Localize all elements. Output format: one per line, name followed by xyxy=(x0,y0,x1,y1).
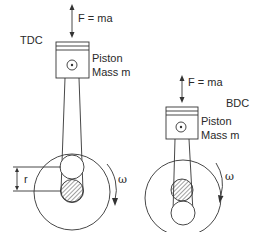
tdc-assembly: F = ma TDC Piston Mass m xyxy=(13,4,131,230)
tdc-radius-label: r xyxy=(24,173,28,185)
tdc-piston-label: Piston xyxy=(92,52,123,64)
bdc-rotation-arrow-icon xyxy=(216,163,224,203)
tdc-rod-eye xyxy=(60,155,84,179)
bdc-piston xyxy=(166,107,198,139)
tdc-radius-dimension xyxy=(13,167,61,191)
bdc-crank-pin xyxy=(171,179,193,201)
bdc-force-label: F = ma xyxy=(188,76,223,88)
tdc-mass-label: Mass m xyxy=(92,66,131,78)
tdc-rotation-arrow-icon xyxy=(107,164,118,206)
tdc-omega-label: ω xyxy=(118,173,127,186)
bdc-piston-label: Piston xyxy=(201,115,232,127)
bdc-rod-eye xyxy=(171,201,195,225)
bdc-mass-label: Mass m xyxy=(201,129,240,141)
bdc-force-arrow-icon xyxy=(180,75,185,103)
tdc-crank-pin xyxy=(61,180,84,203)
tdc-piston xyxy=(56,42,89,78)
bdc-assembly: F = ma BDC Piston Mass m ω xyxy=(145,75,249,232)
tdc-force-arrow-icon xyxy=(70,4,75,38)
tdc-position-label: TDC xyxy=(20,34,43,46)
tdc-force-label: F = ma xyxy=(78,12,113,24)
piston-crank-diagram: F = ma TDC Piston Mass m xyxy=(0,0,260,232)
bdc-position-label: BDC xyxy=(226,97,249,109)
bdc-omega-label: ω xyxy=(225,170,234,183)
